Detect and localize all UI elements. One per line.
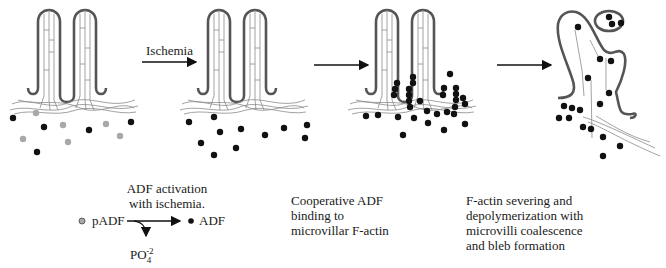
padf-label: pADF xyxy=(92,213,125,229)
panel-2-microvilli xyxy=(180,10,310,158)
mixed-adf-dots xyxy=(10,110,134,155)
binding-caption: Cooperative ADF binding to microvillar F… xyxy=(291,193,389,238)
activation-caption: ADF activation with ischemia. xyxy=(107,181,227,211)
adf-icon xyxy=(188,218,194,224)
panel-4-bleb xyxy=(556,11,660,159)
adf-label: ADF xyxy=(199,213,225,229)
panel-3-microvilli xyxy=(348,10,476,138)
padf-icon xyxy=(79,218,85,224)
ischemia-label: Ischemia xyxy=(146,43,193,58)
panel-1-microvilli xyxy=(10,10,138,155)
phosphate-label: PO4-2 xyxy=(130,246,154,265)
severing-caption: F-actin severing and depolymerization wi… xyxy=(466,193,583,253)
